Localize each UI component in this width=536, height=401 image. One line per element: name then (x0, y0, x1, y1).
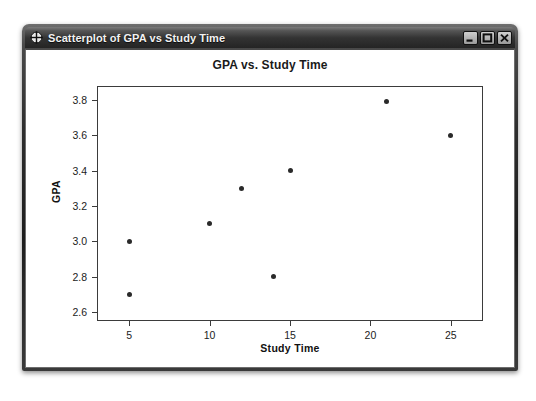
y-axis-tick-label: 3.6 (59, 129, 87, 141)
y-axis-tick-label: 3.8 (59, 94, 87, 106)
chart-title: GPA vs. Study Time (26, 58, 514, 72)
y-axis-tick (92, 312, 97, 313)
maximize-button[interactable] (480, 31, 495, 45)
y-axis-tick-label: 2.6 (59, 306, 87, 318)
x-axis-tick-label: 20 (365, 329, 377, 341)
y-axis-tick (92, 241, 97, 242)
close-button[interactable] (497, 31, 512, 45)
y-axis-tick (92, 277, 97, 278)
application-window: Scatterplot of GPA vs Study Time (22, 24, 518, 371)
y-axis-tick-label: 2.8 (59, 271, 87, 283)
x-axis-label: Study Time (97, 342, 483, 354)
y-axis-tick (92, 171, 97, 172)
data-point (127, 292, 132, 297)
data-point (127, 239, 132, 244)
data-point (288, 168, 293, 173)
y-axis-tick-label: 3.0 (59, 235, 87, 247)
y-axis-tick (92, 100, 97, 101)
x-axis-tick (290, 321, 291, 326)
x-axis-tick (451, 321, 452, 326)
minimize-button[interactable] (463, 31, 478, 45)
x-axis-tick-label: 10 (204, 329, 216, 341)
x-axis-tick-label: 5 (126, 329, 132, 341)
crosshair-circle-icon (30, 31, 43, 44)
y-axis-tick (92, 135, 97, 136)
window-client-area: GPA vs. Study Time GPA Study Time 2.62.8… (25, 49, 515, 368)
y-axis-tick-label: 3.4 (59, 165, 87, 177)
x-axis-tick-label: 25 (445, 329, 457, 341)
x-axis-tick (210, 321, 211, 326)
y-axis-tick (92, 206, 97, 207)
plot-area (97, 86, 483, 321)
window-title-text: Scatterplot of GPA vs Study Time (48, 32, 463, 44)
scatterplot-chart: GPA vs. Study Time GPA Study Time 2.62.8… (26, 50, 514, 367)
x-axis-tick-label: 15 (284, 329, 296, 341)
y-axis-tick-label: 3.2 (59, 200, 87, 212)
window-title-bar[interactable]: Scatterplot of GPA vs Study Time (25, 27, 515, 48)
window-controls (463, 31, 512, 45)
x-axis-tick (370, 321, 371, 326)
x-axis-tick (129, 321, 130, 326)
